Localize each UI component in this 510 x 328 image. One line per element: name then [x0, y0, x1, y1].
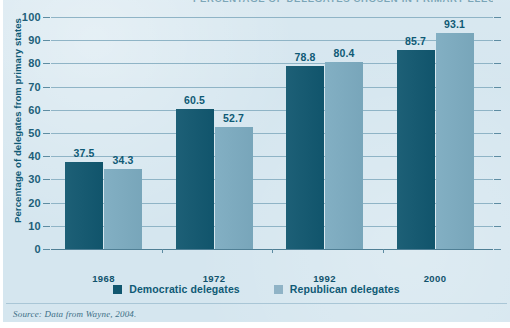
- bar-2000-democratic[interactable]: [397, 50, 435, 249]
- y-tick-left-0: [43, 249, 50, 250]
- source-label: Source:: [13, 309, 42, 319]
- y-axis-label-90: 90: [3, 34, 41, 46]
- legend-swatch-republican: [274, 285, 283, 294]
- y-tick-right-10: [494, 226, 501, 227]
- y-axis-label-70: 70: [3, 81, 41, 93]
- bar-1968-republican[interactable]: [104, 169, 142, 249]
- legend-item-democratic[interactable]: Democratic delegates: [113, 283, 240, 295]
- bar-1972-republican[interactable]: [215, 127, 253, 249]
- y-tick-right-80: [494, 63, 501, 64]
- figure-bar-chart: PERCENTAGE OF DELEGATES CHOSEN IN PRIMAR…: [0, 0, 510, 328]
- bar-group-1968: 37.534.3: [65, 17, 142, 249]
- y-axis-label-80: 80: [3, 57, 41, 69]
- x-tick-2: [272, 249, 273, 253]
- y-axis-tick-labels: 1009080706050403020100: [3, 17, 41, 249]
- legend-label-republican: Republican delegates: [290, 283, 400, 295]
- bar-group-1992: 78.880.4: [286, 17, 363, 249]
- bar-1968-democratic[interactable]: [65, 162, 103, 249]
- bar-value-label-1972-democratic: 60.5: [172, 94, 218, 106]
- y-axis-label-50: 50: [3, 127, 41, 139]
- y-axis-label-100: 100: [3, 11, 41, 23]
- bar-group-1972: 60.552.7: [176, 17, 253, 249]
- y-tick-right-30: [494, 179, 501, 180]
- bar-1992-democratic[interactable]: [286, 66, 324, 249]
- y-tick-left-80: [43, 63, 50, 64]
- y-tick-right-0: [494, 249, 501, 250]
- left-margin: [0, 0, 3, 328]
- y-tick-right-70: [494, 87, 501, 88]
- y-tick-left-100: [43, 17, 50, 18]
- y-axis-label-20: 20: [3, 197, 41, 209]
- bar-value-label-1972-republican: 52.7: [211, 112, 257, 124]
- bar-value-label-1992-republican: 80.4: [321, 47, 367, 59]
- legend-label-democratic: Democratic delegates: [129, 283, 240, 295]
- source-note: Source: Data from Wayne, 2004.: [13, 309, 137, 319]
- bar-group-2000: 85.793.1: [397, 17, 474, 249]
- legend-item-republican[interactable]: Republican delegates: [274, 283, 400, 295]
- y-tick-left-90: [43, 40, 50, 41]
- chart-title: PERCENTAGE OF DELEGATES CHOSEN IN PRIMAR…: [193, 0, 493, 5]
- y-axis-label-30: 30: [3, 173, 41, 185]
- x-tick-3: [383, 249, 384, 253]
- y-tick-left-30: [43, 179, 50, 180]
- y-axis-label-0: 0: [3, 243, 41, 255]
- y-tick-left-70: [43, 87, 50, 88]
- y-tick-right-40: [494, 156, 501, 157]
- source-text: Data from Wayne, 2004.: [42, 309, 136, 319]
- plot-area: 37.534.3196860.552.7197278.880.4199285.7…: [51, 17, 493, 249]
- y-axis-label-10: 10: [3, 220, 41, 232]
- y-tick-left-60: [43, 110, 50, 111]
- y-tick-left-40: [43, 156, 50, 157]
- y-tick-right-20: [494, 203, 501, 204]
- bar-value-label-2000-democratic: 85.7: [393, 35, 439, 47]
- bar-value-label-1968-republican: 34.3: [100, 154, 146, 166]
- y-tick-left-50: [43, 133, 50, 134]
- y-tick-right-90: [494, 40, 501, 41]
- y-tick-right-60: [494, 110, 501, 111]
- y-axis-label-40: 40: [3, 150, 41, 162]
- x-tick-1: [162, 249, 163, 253]
- source-divider: [6, 303, 507, 304]
- bar-value-label-2000-republican: 93.1: [432, 18, 478, 30]
- y-tick-right-100: [494, 17, 501, 18]
- legend-swatch-democratic: [113, 285, 122, 294]
- bar-1972-democratic[interactable]: [176, 109, 214, 249]
- bottom-margin: [0, 322, 510, 328]
- y-tick-right-50: [494, 133, 501, 134]
- y-axis-label-60: 60: [3, 104, 41, 116]
- chart-panel: PERCENTAGE OF DELEGATES CHOSEN IN PRIMAR…: [3, 0, 510, 322]
- bar-2000-republican[interactable]: [436, 33, 474, 249]
- y-tick-left-10: [43, 226, 50, 227]
- y-tick-left-20: [43, 203, 50, 204]
- chart-legend: Democratic delegates Republican delegate…: [3, 283, 510, 295]
- bar-1992-republican[interactable]: [325, 62, 363, 249]
